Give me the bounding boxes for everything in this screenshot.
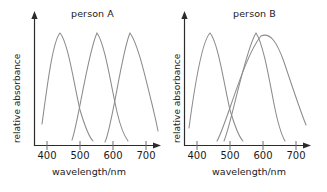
curve-long-wavelength-person-a (105, 33, 158, 142)
x-tick-label-500-person-b: 500 (216, 150, 244, 161)
x-tick-label-400-person-a: 400 (33, 150, 61, 161)
x-axis-label-person-a: wavelength/nm (30, 166, 148, 177)
chart-panel-person-a: person A (0, 0, 163, 192)
curve-short-wavelength-person-a (42, 33, 93, 141)
x-tick-label-700-person-b: 700 (282, 150, 310, 161)
plot-area-person-b (164, 0, 327, 192)
plot-area-person-a (0, 0, 163, 192)
curve-short-wavelength-person-b (189, 33, 243, 141)
curve-long-wavelength-person-b (217, 35, 306, 141)
x-tick-label-700-person-a: 700 (132, 150, 160, 161)
x-tick-label-600-person-a: 600 (99, 150, 127, 161)
x-tick-label-400-person-b: 400 (183, 150, 211, 161)
chart-panel-person-b: person B (164, 0, 327, 192)
y-axis-label-person-b: relative absorbance (172, 54, 182, 143)
curve-medium-shifted-person-b (224, 33, 285, 141)
curve-medium-wavelength-person-a (72, 33, 128, 141)
absorbance-spectra-figure: person A (0, 0, 327, 192)
x-axis-person-b (185, 142, 312, 148)
y-axis-person-a (31, 11, 37, 146)
y-axis-label-person-a: relative absorbance (12, 54, 22, 143)
x-axis-label-person-b: wavelength/nm (190, 166, 308, 177)
y-axis-person-b (181, 11, 187, 146)
x-tick-label-500-person-a: 500 (66, 150, 94, 161)
x-tick-label-600-person-b: 600 (249, 150, 277, 161)
x-axis-person-a (35, 142, 162, 148)
